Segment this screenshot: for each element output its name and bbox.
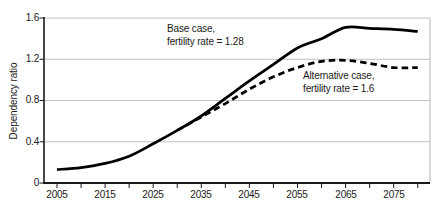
y-tick-0.8: 0.8 — [6, 94, 39, 106]
x-tick-2015: 2015 — [85, 189, 125, 201]
series-alternative-case — [177, 60, 418, 130]
x-tick-2075: 2075 — [374, 189, 414, 201]
x-tick-2005: 2005 — [37, 189, 77, 201]
x-tick-2045: 2045 — [229, 189, 269, 201]
y-tick-1.2: 1.2 — [6, 53, 39, 65]
x-tick-2055: 2055 — [277, 189, 317, 201]
dependency-ratio-chart: Dependency ratio 1.6 1.2 0.8 0.4 0 2005 … — [0, 0, 442, 211]
y-tick-0: 0 — [6, 177, 39, 189]
base-case-annotation-line2: fertility rate = 1.28 — [167, 36, 244, 49]
base-case-annotation-line1: Base case, — [167, 23, 244, 36]
series-base-case — [57, 27, 418, 170]
y-tick-1.6: 1.6 — [6, 12, 39, 24]
x-tick-2035: 2035 — [181, 189, 221, 201]
alternative-case-annotation: Alternative case, fertility rate = 1.6 — [303, 70, 374, 95]
x-tick-2065: 2065 — [326, 189, 366, 201]
alternative-case-annotation-line1: Alternative case, — [303, 70, 374, 83]
base-case-annotation: Base case, fertility rate = 1.28 — [167, 23, 244, 48]
alternative-case-annotation-line2: fertility rate = 1.6 — [303, 83, 374, 96]
y-tick-0.4: 0.4 — [6, 136, 39, 148]
x-tick-2025: 2025 — [133, 189, 173, 201]
